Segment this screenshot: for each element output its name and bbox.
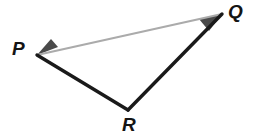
geometry-figure-canvas: P Q R xyxy=(0,0,261,138)
vertex-label-R: R xyxy=(122,115,136,134)
triangle-side-QR xyxy=(128,14,222,110)
triangle-side-RP xyxy=(37,55,128,110)
triangle-side-PQ xyxy=(37,14,222,55)
vertex-label-P: P xyxy=(12,39,25,58)
vertex-label-Q: Q xyxy=(228,2,243,21)
